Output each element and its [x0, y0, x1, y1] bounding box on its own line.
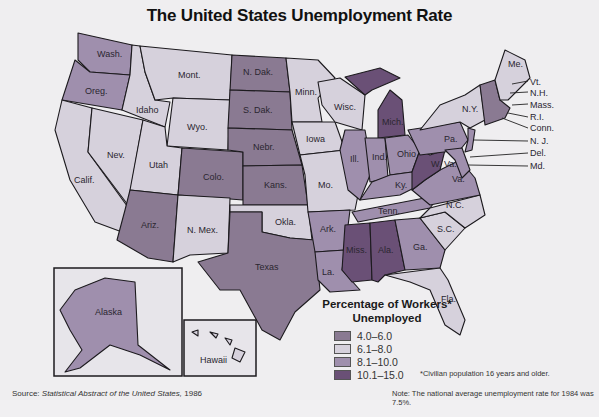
- hawaii-inset: [184, 320, 256, 376]
- svg-text:N.Y.: N.Y.: [462, 104, 478, 114]
- svg-text:Ala.: Ala.: [378, 245, 394, 255]
- svg-text:Mo.: Mo.: [318, 180, 333, 190]
- svg-text:N. Dak.: N. Dak.: [243, 67, 273, 77]
- svg-text:Ind.: Ind.: [372, 152, 387, 162]
- svg-text:Mich.: Mich.: [382, 117, 404, 127]
- source-citation: Source: Statistical Abstract of the Unit…: [12, 389, 202, 398]
- svg-text:Ark.: Ark.: [320, 224, 336, 234]
- svg-text:Nev.: Nev.: [107, 150, 125, 160]
- svg-text:Utah: Utah: [149, 160, 168, 170]
- footnote: *Civilian population 16 years and older.: [420, 369, 550, 378]
- svg-text:Kans.: Kans.: [264, 180, 287, 190]
- svg-text:Wisc.: Wisc.: [334, 102, 356, 112]
- svg-text:Calif.: Calif.: [74, 175, 95, 185]
- svg-text:Va.: Va.: [452, 174, 465, 184]
- us-map: .c1 { fill: #8a7a92; } /* 4.0-6.0 */ .c2…: [0, 0, 599, 417]
- svg-text:Oreg.: Oreg.: [85, 86, 108, 96]
- svg-text:Minn.: Minn.: [295, 87, 317, 97]
- legend-item: 6.1–8.0: [334, 342, 472, 355]
- svg-text:Me.: Me.: [508, 59, 523, 69]
- svg-text:Ky.: Ky.: [395, 180, 407, 190]
- svg-text:Colo.: Colo.: [203, 172, 224, 182]
- svg-text:Iowa: Iowa: [306, 134, 325, 144]
- svg-text:N. Mex.: N. Mex.: [187, 225, 218, 235]
- svg-text:N.H.: N.H.: [530, 88, 548, 98]
- svg-text:R.I.: R.I.: [530, 112, 544, 122]
- legend-item: 4.0–6.0: [334, 329, 472, 342]
- alaska-label: Alaska: [95, 307, 122, 317]
- svg-text:Conn.: Conn.: [530, 123, 554, 133]
- svg-text:Okla.: Okla.: [275, 217, 296, 227]
- svg-text:N.C.: N.C.: [446, 200, 464, 210]
- svg-text:Ariz.: Ariz.: [141, 220, 159, 230]
- national-average-note: Note: The national average unemployment …: [392, 389, 599, 407]
- svg-text:Texas: Texas: [255, 262, 279, 272]
- legend-swatch: [334, 357, 351, 367]
- hawaii-label: Hawaii: [200, 355, 227, 365]
- svg-text:Ga.: Ga.: [413, 242, 428, 252]
- svg-text:S.C.: S.C.: [437, 224, 455, 234]
- svg-text:Pa.: Pa.: [444, 134, 458, 144]
- svg-text:Mont.: Mont.: [178, 70, 201, 80]
- svg-text:N. J.: N. J.: [530, 136, 549, 146]
- legend-title: Percentage of Workers* Unemployed: [302, 297, 472, 325]
- svg-text:Vt.: Vt.: [530, 77, 541, 87]
- svg-text:La.: La.: [322, 267, 335, 277]
- legend-swatch: [334, 344, 351, 354]
- svg-text:W. Va.: W. Va.: [431, 159, 457, 169]
- svg-text:S. Dak.: S. Dak.: [243, 105, 273, 115]
- svg-text:Wash.: Wash.: [97, 49, 122, 59]
- svg-text:Del.: Del.: [530, 148, 546, 158]
- svg-text:Mass.: Mass.: [530, 100, 554, 110]
- svg-text:Tenn.: Tenn.: [378, 206, 400, 216]
- svg-text:Idaho: Idaho: [136, 105, 159, 115]
- legend-item: 8.1–10.0: [334, 355, 472, 368]
- svg-text:Ohio: Ohio: [397, 149, 416, 159]
- svg-text:Miss.: Miss.: [346, 245, 367, 255]
- svg-text:Nebr.: Nebr.: [253, 142, 275, 152]
- svg-text:Md.: Md.: [530, 161, 545, 171]
- legend-swatch: [334, 331, 351, 341]
- svg-text:Wyo.: Wyo.: [187, 122, 207, 132]
- legend-swatch: [334, 370, 351, 380]
- svg-text:Ill.: Ill.: [350, 154, 359, 164]
